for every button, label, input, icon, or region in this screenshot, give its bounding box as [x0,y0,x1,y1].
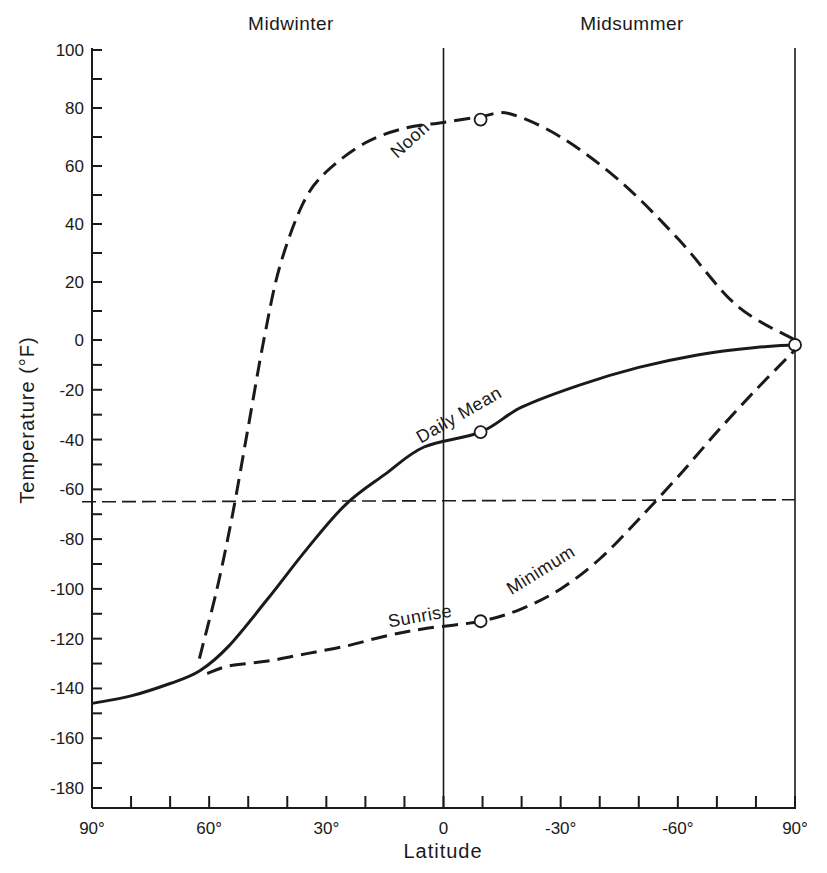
y-tick-label: -120 [50,630,84,649]
y-tick-label: 20 [65,273,84,292]
daily-mean-marker [475,426,487,438]
x-tick-label: 60° [196,819,222,838]
region-label-midsummer: Midsummer [580,13,684,34]
x-tick-label: 90° [79,819,105,838]
y-tick-label: -100 [50,580,84,599]
horizontal-dashed-reference-line [82,500,795,502]
y-tick-label: -140 [50,679,84,698]
y-tick-label: 80 [65,99,84,118]
minimum-label: Minimum [503,541,578,599]
y-tick-label: 100 [56,41,84,60]
x-tick-label: 90° [782,819,808,838]
x-tick-label: -30° [545,819,576,838]
y-tick-label: 60 [65,157,84,176]
labels: NoonDaily MeanSunriseMinimum [386,117,578,631]
x-axis-title: Latitude [403,840,482,862]
y-tick-label: -40 [59,431,84,450]
y-axis-title: Temperature (°F) [16,336,38,503]
chart: 100806040200-20-40-60-80-100-120-140-160… [0,0,827,873]
y-tick-label: -180 [50,779,84,798]
y-tick-label: -60 [59,480,84,499]
sunrise-minimum-marker [475,615,487,627]
daily-mean-marker [789,339,801,351]
x-tick-label: 30° [313,819,339,838]
noon-curve [199,113,795,659]
x-tick-label: 0 [439,819,448,838]
noon-label: Noon [387,117,434,162]
y-tick-label: -80 [59,530,84,549]
y-tick-label: 0 [75,331,84,350]
y-tick-label: -160 [50,729,84,748]
y-tick-label: 40 [65,215,84,234]
noon-marker [475,114,487,126]
y-tick-label: -20 [59,381,84,400]
region-label-midwinter: Midwinter [248,13,334,34]
x-tick-label: -60° [662,819,693,838]
